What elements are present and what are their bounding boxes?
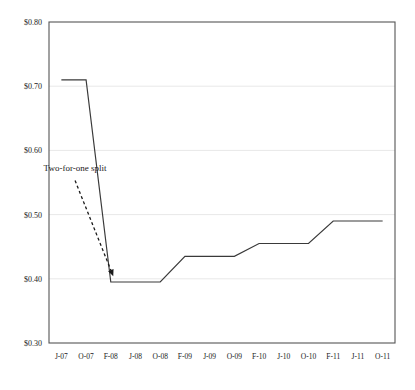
- x-tick-label: F-09: [178, 352, 192, 361]
- y-tick-label: $0.80: [24, 18, 42, 27]
- y-tick-label: $0.50: [24, 211, 42, 220]
- chart-background: [0, 0, 415, 390]
- y-tick-label: $0.60: [24, 146, 42, 155]
- x-tick-label: J-09: [203, 352, 216, 361]
- x-tick-label: O-11: [375, 352, 390, 361]
- x-tick-label: F-11: [326, 352, 340, 361]
- x-tick-label: J-10: [277, 352, 290, 361]
- annotation-label: Two-for-one split: [44, 163, 107, 173]
- x-tick-label: F-10: [252, 352, 266, 361]
- chart-canvas: $0.30$0.40$0.50$0.60$0.70$0.80 J-07O-07F…: [0, 0, 415, 390]
- x-tick-label: J-11: [352, 352, 365, 361]
- y-tick-label: $0.30: [24, 339, 42, 348]
- y-tick-label: $0.70: [24, 82, 42, 91]
- x-tick-label: O-09: [227, 352, 243, 361]
- x-tick-label: O-10: [301, 352, 317, 361]
- x-tick-label: J-08: [129, 352, 142, 361]
- x-tick-label: O-07: [78, 352, 94, 361]
- x-tick-label: O-08: [153, 352, 169, 361]
- x-tick-label: J-07: [55, 352, 68, 361]
- stock-price-chart: $0.30$0.40$0.50$0.60$0.70$0.80 J-07O-07F…: [0, 0, 415, 390]
- x-tick-label: F-08: [104, 352, 118, 361]
- y-tick-label: $0.40: [24, 275, 42, 284]
